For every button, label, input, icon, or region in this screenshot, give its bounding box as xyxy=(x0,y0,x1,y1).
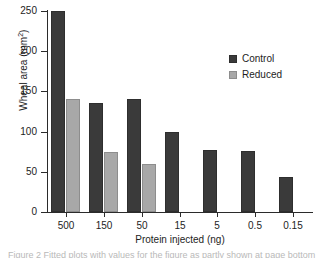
legend-item-reduced: Reduced xyxy=(229,67,282,83)
figure-bar-chart: 050100150200250 500150501550.50.15 Contr… xyxy=(0,0,325,258)
x-tick-label-0.15: 0.15 xyxy=(263,220,323,231)
plot-area xyxy=(47,11,312,212)
control-swatch-icon xyxy=(229,55,237,63)
x-tick-500 xyxy=(66,212,67,217)
bar-reduced-50 xyxy=(142,164,156,212)
y-axis-title-tail: ) xyxy=(18,30,29,33)
x-tick-0.5 xyxy=(255,212,256,217)
legend-label-control: Control xyxy=(242,54,274,64)
page-caption-fragment: Figure 2 Fitted plots with values for th… xyxy=(8,250,318,258)
y-tick-label-50: 50 xyxy=(0,167,37,177)
x-tick-150 xyxy=(104,212,105,217)
y-axis-title-base: Wheal area (mm xyxy=(18,37,29,111)
bar-control-15 xyxy=(165,132,179,212)
bar-reduced-150 xyxy=(104,152,118,212)
x-tick-50 xyxy=(142,212,143,217)
bar-control-150 xyxy=(89,103,103,212)
bar-control-0.15 xyxy=(279,177,293,212)
x-axis-title: Protein injected (ng) xyxy=(47,234,313,245)
x-tick-5 xyxy=(217,212,218,217)
bar-reduced-500 xyxy=(66,99,80,212)
y-axis-title: Wheal area (mm2) xyxy=(17,0,29,145)
y-tick-0 xyxy=(41,212,47,213)
bar-control-50 xyxy=(127,99,141,212)
bar-control-5 xyxy=(203,150,217,212)
reduced-swatch-icon xyxy=(229,71,237,79)
x-tick-15 xyxy=(180,212,181,217)
legend-label-reduced: Reduced xyxy=(242,70,282,80)
bar-control-500 xyxy=(51,11,65,212)
bar-control-0.5 xyxy=(241,151,255,212)
y-axis-title-superscript: 2 xyxy=(17,33,24,37)
y-tick-label-0: 0 xyxy=(0,207,37,217)
x-tick-0.15 xyxy=(293,212,294,217)
legend: Control Reduced xyxy=(229,51,282,83)
legend-item-control: Control xyxy=(229,51,282,67)
